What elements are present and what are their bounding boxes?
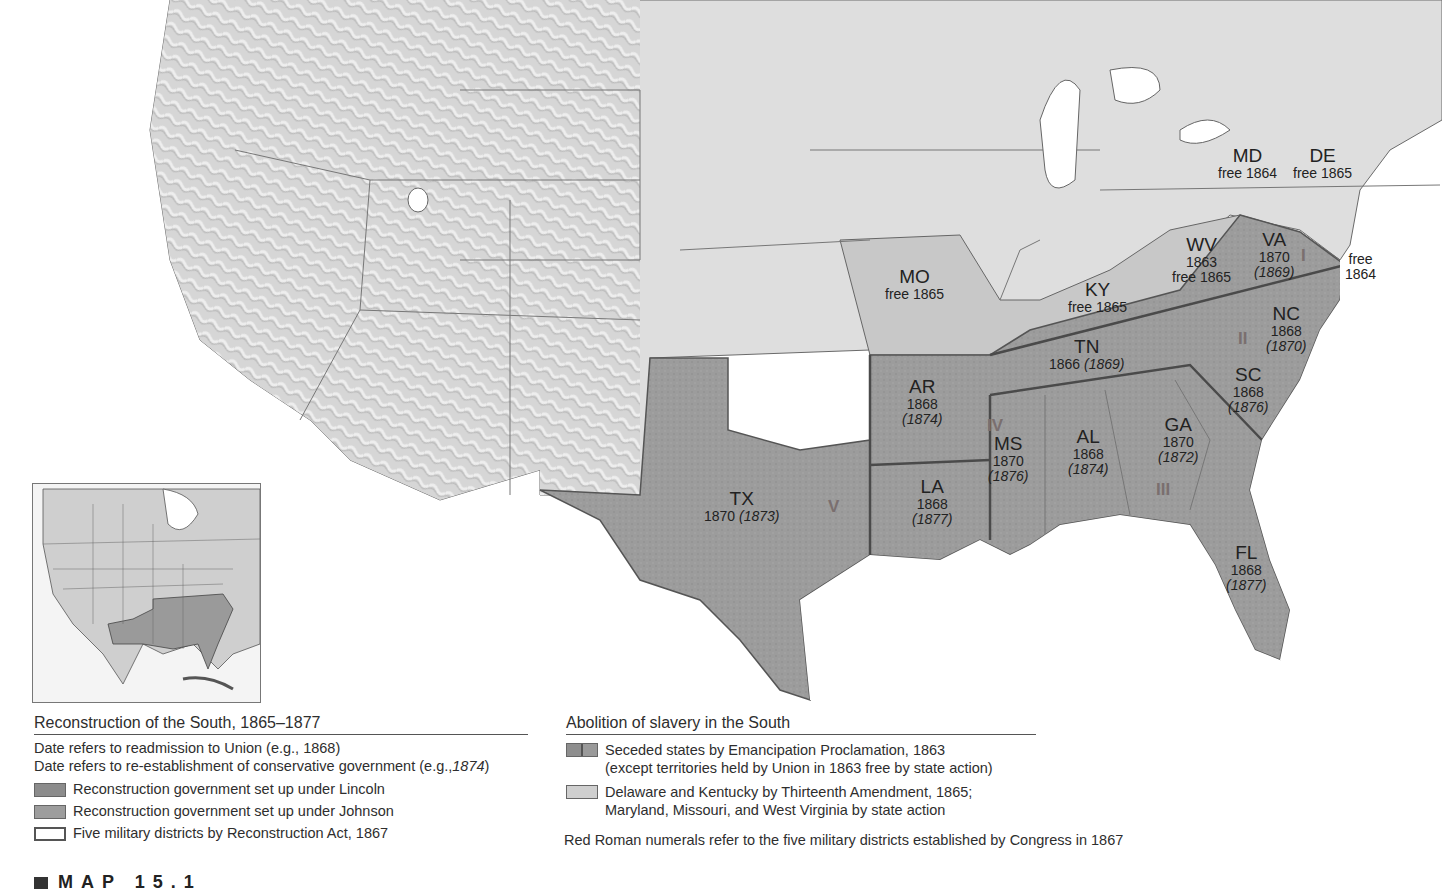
johnson-swatch-icon bbox=[34, 805, 66, 819]
map-caption: MAP 15.1 bbox=[34, 872, 202, 893]
state-label-nc: NC1868(1870) bbox=[1266, 304, 1306, 353]
military-district-iv: IV bbox=[987, 416, 1003, 436]
lincoln-swatch-icon bbox=[34, 783, 66, 797]
state-label-tn: TN1866 (1869) bbox=[1049, 337, 1125, 372]
legend-item-emancipation: Seceded states by Emancipation Proclamat… bbox=[566, 741, 1036, 777]
seceded-swatch-icon bbox=[566, 743, 598, 757]
legend-abolition-title: Abolition of slavery in the South bbox=[566, 714, 1036, 735]
legend-item-thirteenth-amendment: Delaware and Kentucky by Thirteenth Amen… bbox=[566, 783, 1036, 819]
military-district-iii: III bbox=[1156, 480, 1170, 500]
state-label-la: LA1868(1877) bbox=[912, 477, 952, 526]
state-label-wv: WV1863free 1865 bbox=[1172, 235, 1231, 284]
state-label-md: MDfree 1864 bbox=[1218, 146, 1277, 181]
state-label-ky: KYfree 1865 bbox=[1068, 280, 1127, 315]
legend-item-johnson: Reconstruction government set up under J… bbox=[34, 803, 528, 819]
legend-item-lincoln: Reconstruction government set up under L… bbox=[34, 781, 528, 797]
state-label-de: DEfree 1865 bbox=[1293, 146, 1352, 181]
state-label-ar: AR1868(1874) bbox=[902, 377, 942, 426]
military-district-v: V bbox=[828, 497, 839, 517]
caption-square-icon bbox=[34, 877, 48, 889]
thirteenth-amendment-swatch-icon bbox=[566, 785, 598, 799]
district-outline-swatch-icon bbox=[34, 827, 66, 841]
legend-note-conservative: Date refers to re-establishment of conse… bbox=[34, 757, 528, 775]
state-label-md-eastern-shore: free1864 bbox=[1345, 252, 1376, 281]
state-label-va: VA1870(1869) bbox=[1254, 230, 1294, 279]
legend-reconstruction: Reconstruction of the South, 1865–1877 D… bbox=[34, 714, 528, 841]
military-district-i: I bbox=[1301, 246, 1306, 266]
legend-note-readmission: Date refers to readmission to Union (e.g… bbox=[34, 739, 528, 757]
state-label-ms: MS1870(1876) bbox=[988, 434, 1028, 483]
state-label-tx: TX1870 (1873) bbox=[704, 489, 780, 524]
legend-item-military-districts: Five military districts by Reconstructio… bbox=[34, 825, 528, 841]
state-label-al: AL1868(1874) bbox=[1068, 427, 1108, 476]
western-relief bbox=[150, 0, 640, 500]
legend-reconstruction-title: Reconstruction of the South, 1865–1877 bbox=[34, 714, 528, 735]
legend-footnote: Red Roman numerals refer to the five mil… bbox=[564, 832, 1324, 848]
state-label-ga: GA1870(1872) bbox=[1158, 415, 1198, 464]
legend-abolition: Abolition of slavery in the South Secede… bbox=[566, 714, 1036, 819]
state-label-sc: SC1868(1876) bbox=[1228, 365, 1268, 414]
military-district-ii: II bbox=[1238, 329, 1247, 349]
state-label-mo: MOfree 1865 bbox=[885, 267, 944, 302]
north-america-inset-map bbox=[32, 483, 261, 703]
state-label-fl: FL1868(1877) bbox=[1226, 543, 1266, 592]
